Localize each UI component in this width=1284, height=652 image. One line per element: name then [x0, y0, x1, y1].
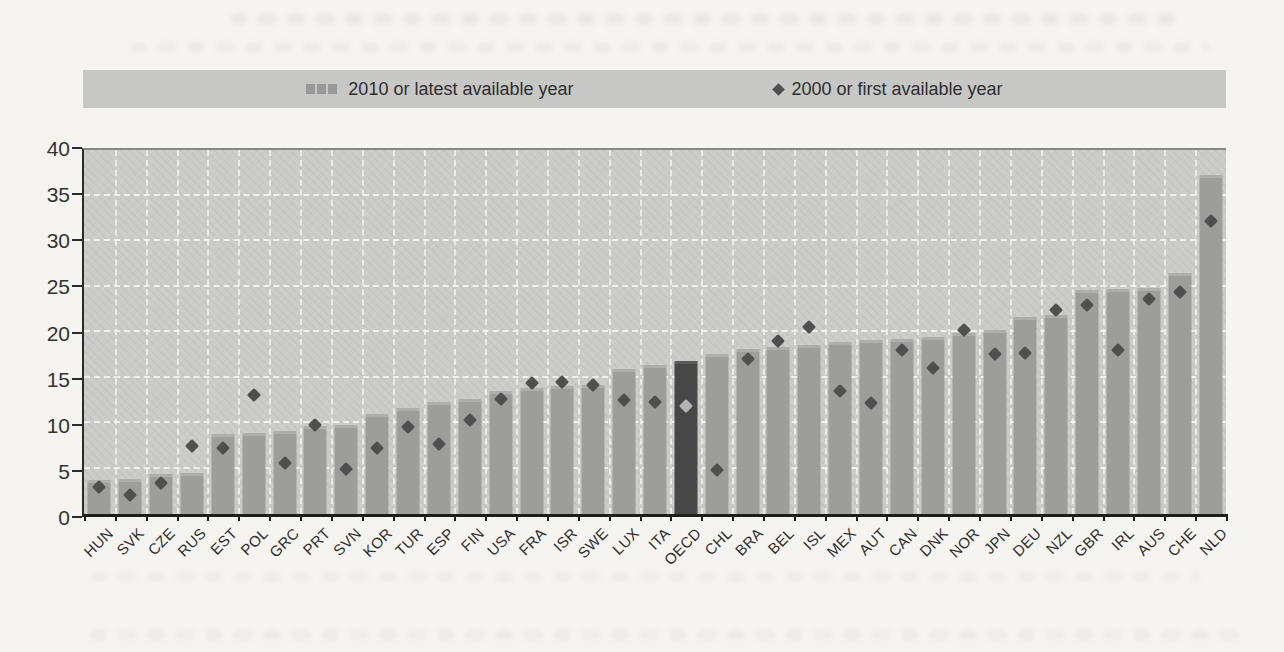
x-tick-mark-7: [300, 514, 302, 521]
bar-ISL: [798, 345, 821, 514]
bar-SWE: [582, 385, 605, 514]
bar-AUT: [860, 340, 883, 514]
x-tick-mark-26: [886, 514, 888, 521]
bar-CAN: [890, 339, 913, 514]
x-tick-mark-35: [1164, 514, 1166, 521]
bar-cell-HUN: [84, 150, 115, 514]
x-axis-labels: HUNSVKCZERUSESTPOLGRCPRTSVNKORTURESPFINU…: [82, 523, 1226, 603]
bar-ITA: [643, 365, 666, 514]
x-tick-mark-18: [640, 514, 642, 521]
x-tick-mark-29: [979, 514, 981, 521]
x-tick-mark-28: [948, 514, 950, 521]
bar-cell-CAN: [886, 150, 917, 514]
bar-cell-EST: [207, 150, 238, 514]
x-tick-mark-30: [1010, 514, 1012, 521]
chart-legend: 2010 or latest available year 2000 or fi…: [83, 70, 1226, 108]
x-tick-mark-23: [794, 514, 796, 521]
bar-cell-BRA: [732, 150, 763, 514]
x-tick-mark-14: [516, 514, 518, 521]
scan-bleedthrough-top-line1: [230, 14, 1180, 24]
y-tick-mark-25: [72, 285, 82, 287]
x-tick-mark-10: [393, 514, 395, 521]
y-axis: 0510152025303540: [0, 148, 76, 517]
x-tick-mark-20: [701, 514, 703, 521]
bar-cell-NOR: [948, 150, 979, 514]
x-tick-mark-6: [269, 514, 271, 521]
bar-cell-MEX: [825, 150, 856, 514]
y-tick-label-40: 40: [47, 138, 70, 159]
x-tick-mark-5: [238, 514, 240, 521]
x-tick-mark-13: [485, 514, 487, 521]
y-tick-mark-0: [72, 516, 82, 518]
x-tick-mark-37: [1226, 514, 1228, 521]
x-tick-mark-8: [331, 514, 333, 521]
bar-cell-NLD: [1195, 150, 1226, 514]
bar-cell-FRA: [516, 150, 547, 514]
bar-cell-FIN: [454, 150, 485, 514]
bar-cell-LUX: [609, 150, 640, 514]
diamond-icon: [772, 83, 785, 96]
bar-USA: [489, 391, 512, 514]
x-tick-mark-4: [207, 514, 209, 521]
bar-cell-CZE: [146, 150, 177, 514]
y-tick-mark-30: [72, 239, 82, 241]
x-tick-mark-34: [1133, 514, 1135, 521]
bar-cell-SWE: [578, 150, 609, 514]
x-tick-mark-31: [1041, 514, 1043, 521]
y-tick-label-30: 30: [47, 230, 70, 251]
x-tick-mark-17: [609, 514, 611, 521]
bar-cell-TUR: [393, 150, 424, 514]
x-tick-mark-22: [763, 514, 765, 521]
x-tick-mark-3: [177, 514, 179, 521]
y-tick-mark-40: [72, 147, 82, 149]
bar-cell-ITA: [640, 150, 671, 514]
y-tick-label-5: 5: [58, 460, 70, 481]
bar-cell-GRC: [269, 150, 300, 514]
y-tick-mark-20: [72, 332, 82, 334]
x-tick-mark-9: [362, 514, 364, 521]
bar-PRT: [304, 426, 327, 514]
x-tick-mark-36: [1195, 514, 1197, 521]
scanned-chart-page: 2010 or latest available year 2000 or fi…: [0, 0, 1284, 652]
y-tick-label-10: 10: [47, 414, 70, 435]
x-tick-mark-12: [454, 514, 456, 521]
bar-CHE: [1168, 273, 1191, 514]
bar-cell-DNK: [917, 150, 948, 514]
x-tick-mark-0: [84, 514, 86, 521]
diamond-RUS: [185, 439, 199, 453]
y-tick-label-35: 35: [47, 184, 70, 205]
bar-KOR: [366, 414, 389, 514]
bar-cell-AUS: [1133, 150, 1164, 514]
bar-cell-NZL: [1041, 150, 1072, 514]
diamond-POL: [247, 388, 261, 402]
legend-label-2010: 2010 or latest available year: [348, 79, 573, 100]
y-tick-mark-10: [72, 424, 82, 426]
bar-AUS: [1137, 288, 1160, 514]
bar-cell-ESP: [424, 150, 455, 514]
bar-BEL: [767, 347, 790, 514]
x-tick-mark-27: [917, 514, 919, 521]
bar-ESP: [427, 402, 450, 514]
y-tick-label-0: 0: [58, 507, 70, 528]
bar-ISR: [551, 386, 574, 514]
bar-swatch-icon: [306, 84, 339, 94]
bar-cell-BEL: [763, 150, 794, 514]
bar-cell-RUS: [177, 150, 208, 514]
bar-cell-KOR: [362, 150, 393, 514]
x-tick-mark-32: [1072, 514, 1074, 521]
y-tick-mark-15: [72, 378, 82, 380]
x-tick-mark-19: [670, 514, 672, 521]
bar-IRL: [1106, 289, 1129, 514]
bar-cell-CHE: [1164, 150, 1195, 514]
diamond-ISL: [802, 319, 816, 333]
bar-cell-POL: [238, 150, 269, 514]
bar-BRA: [736, 349, 759, 514]
x-tick-mark-33: [1103, 514, 1105, 521]
bar-MEX: [829, 342, 852, 514]
x-tick-mark-15: [547, 514, 549, 521]
bar-GRC: [273, 431, 296, 514]
x-tick-mark-25: [856, 514, 858, 521]
bar-cell-IRL: [1103, 150, 1134, 514]
scan-bleedthrough-top-line2: [130, 42, 1210, 52]
scan-bleedthrough-bottom-line2: [90, 630, 1250, 640]
